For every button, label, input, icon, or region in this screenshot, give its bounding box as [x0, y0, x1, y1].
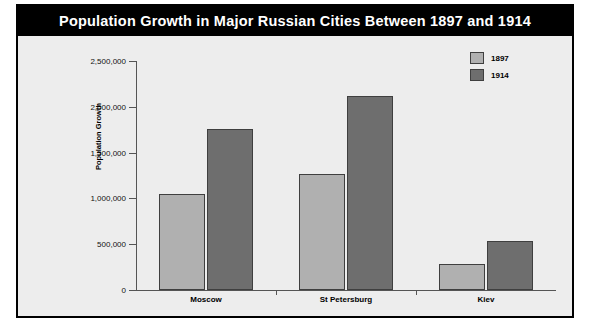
bar-kiev-1914: [487, 241, 533, 290]
legend-label-1897: 1897: [491, 54, 509, 63]
legend-swatch-1914: [470, 69, 484, 81]
bar-kiev-1897: [439, 264, 485, 290]
x-axis-tick-mark: [416, 290, 417, 295]
chart-legend: 1897 1914: [470, 52, 509, 86]
x-axis-category-label: St Petersburg: [320, 295, 372, 304]
legend-item-1914: 1914: [470, 69, 509, 81]
x-axis-category-label: Kiev: [478, 295, 495, 304]
legend-item-1897: 1897: [470, 52, 509, 64]
bar-st-petersburg-1897: [299, 174, 345, 290]
x-axis-tick-mark: [276, 290, 277, 295]
bar-moscow-1914: [207, 129, 253, 290]
x-axis-category-label: Moscow: [190, 295, 222, 304]
legend-label-1914: 1914: [491, 71, 509, 80]
chart-title-bar: Population Growth in Major Russian Citie…: [18, 6, 572, 36]
plot-area: Population Growth 0500,0001,000,0001,500…: [18, 36, 572, 316]
legend-swatch-1897: [470, 52, 484, 64]
bar-st-petersburg-1914: [347, 96, 393, 290]
chart-figure: Population Growth in Major Russian Citie…: [16, 4, 574, 318]
chart-title: Population Growth in Major Russian Citie…: [59, 13, 531, 29]
bar-moscow-1897: [159, 194, 205, 290]
